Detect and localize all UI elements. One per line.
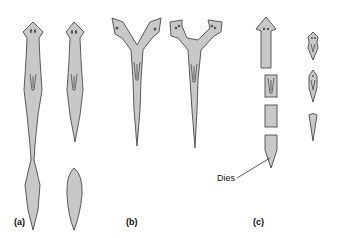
- regen-c1: [308, 32, 318, 60]
- regen-c2: [309, 70, 317, 102]
- fragment-c3: [265, 105, 277, 127]
- fragment-c1-head: [256, 17, 276, 68]
- worm-a2-tail: [67, 168, 82, 230]
- worm-a1-body: [23, 22, 43, 230]
- panel-label-b: (b): [126, 217, 138, 227]
- panel-label-a: (a): [14, 217, 25, 227]
- worm-a2-body: [66, 22, 84, 142]
- diagram-canvas: [0, 0, 337, 238]
- dies-annotation: Dies: [217, 173, 235, 183]
- panel-label-c: (c): [253, 217, 264, 227]
- regen-c3: [309, 114, 317, 142]
- fragment-c4-tip: [265, 135, 277, 168]
- dies-pointer: [237, 158, 270, 178]
- worm-b2-body: [170, 20, 222, 148]
- worm-b1-body: [112, 18, 161, 146]
